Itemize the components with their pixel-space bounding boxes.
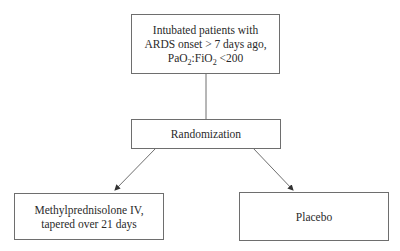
randomization-box: Randomization: [131, 119, 281, 149]
eligibility-line-2: ARDS onset > 7 days ago,: [144, 37, 266, 51]
treatment-box: Methylprednisolone IV, tapered over 21 d…: [14, 193, 164, 240]
randomization-label: Randomization: [171, 127, 241, 141]
eligibility-ratio: PaO2:FiO2 <200: [168, 51, 244, 65]
placebo-label: Placebo: [296, 210, 332, 224]
placebo-box: Placebo: [239, 192, 389, 241]
arrow-to-placebo: [253, 148, 293, 190]
treatment-line-2: tapered over 21 days: [41, 217, 136, 231]
arrow-to-treatment: [115, 148, 156, 190]
treatment-line-1: Methylprednisolone IV,: [34, 203, 143, 217]
eligibility-box: Intubated patients with ARDS onset > 7 d…: [131, 14, 280, 74]
eligibility-line-1: Intubated patients with: [153, 23, 258, 37]
